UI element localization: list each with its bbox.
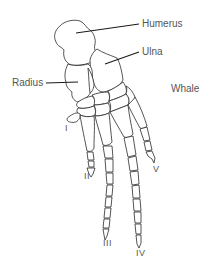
digit-4-phalanx — [124, 136, 136, 157]
whale-forelimb-diagram — [0, 0, 210, 272]
digit-3-phalanx — [104, 208, 111, 218]
digit-4-phalanx — [130, 171, 139, 185]
digit-3-phalanx — [105, 197, 112, 207]
digit-1-numeral: I — [65, 124, 68, 133]
digit-3-phalanx — [103, 146, 113, 158]
digit-5-tip — [146, 151, 155, 163]
digit-4-phalanx — [132, 185, 140, 198]
species-title: Whale — [171, 84, 199, 94]
digit-2-phalanx — [88, 161, 94, 167]
digit-5-numeral: V — [153, 165, 160, 174]
digit-3-metacarpal — [95, 113, 112, 145]
digit-5-phalanx — [140, 127, 150, 141]
digit-2-metacarpal — [80, 115, 94, 151]
digit-3-phalanx — [105, 159, 113, 172]
radius-label: Radius — [12, 78, 43, 88]
digit-4-tip — [136, 235, 141, 248]
digit-4-numeral: IV — [136, 249, 146, 258]
digit-3-numeral: III — [103, 239, 112, 248]
digit-2-phalanx — [87, 152, 94, 160]
digit-4-phalanx — [135, 224, 141, 234]
digit-4-phalanx — [134, 212, 141, 223]
ulna-label: Ulna — [142, 47, 163, 57]
digit-4-phalanx — [133, 199, 141, 211]
digit-1-bone — [67, 113, 80, 122]
digit-2-numeral: II — [84, 172, 90, 181]
digit-5-phalanx — [144, 141, 152, 151]
digit-3-phalanx — [103, 219, 110, 228]
digit-3-phalanx — [106, 173, 113, 184]
humerus-label: Humerus — [142, 19, 183, 29]
digit-4-phalanx — [128, 156, 138, 171]
digit-3-phalanx — [106, 185, 113, 196]
